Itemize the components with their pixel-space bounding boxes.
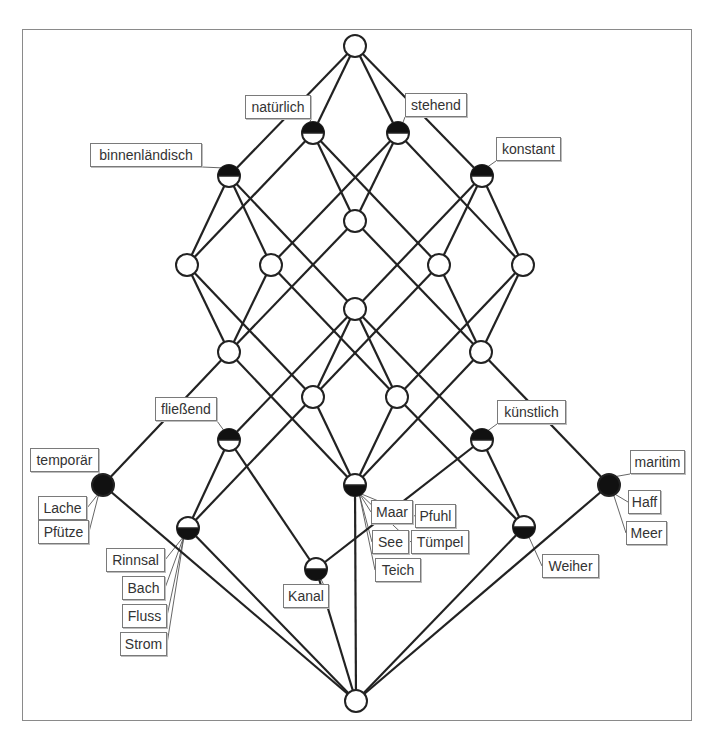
lattice-edge [439,176,482,265]
concept-node-icon[interactable] [302,386,324,408]
lattice-graph [0,0,717,742]
lattice-edge [439,265,481,352]
attribute-label: temporär [30,448,99,472]
lattice-edge [482,176,523,265]
lattice-edge [229,440,316,569]
lattice-edge [313,133,355,221]
concept-node-icon[interactable] [218,341,240,363]
lattice-edge [355,46,398,133]
concept-node-icon[interactable] [302,122,324,144]
label-connector [528,535,542,566]
concept-node-icon[interactable] [470,341,492,363]
object-label: Maar [371,500,413,524]
concept-node-icon[interactable] [345,690,367,712]
concept-node-icon[interactable] [471,429,493,451]
concept-node-icon[interactable] [344,210,366,232]
lattice-edge [313,397,355,485]
lattice-edge [481,265,523,352]
object-label: Pfütze [38,520,89,544]
object-label: Fluss [122,604,167,628]
concept-node-icon[interactable] [428,254,450,276]
attribute-label: maritim [630,450,685,474]
object-label: Bach [122,576,165,600]
object-label: Meer [626,521,667,545]
attribute-label: binnenländisch [90,143,202,167]
object-label: Haff [628,490,661,514]
concept-node-icon[interactable] [598,474,620,496]
object-label: Strom [120,632,167,656]
object-label: See [372,530,409,554]
concept-node-icon[interactable] [176,254,198,276]
lattice-edge [313,309,355,397]
lattice-edge [187,265,229,352]
concept-node-icon[interactable] [177,517,199,539]
concept-node-icon[interactable] [513,516,535,538]
object-label: Weiher [542,554,599,578]
lattice-edge [355,485,356,701]
lattice-edge [229,265,271,352]
concept-node-icon[interactable] [218,165,240,187]
object-label: Pfuhl [415,504,456,528]
object-label: Kanal [283,584,329,608]
concept-node-icon[interactable] [387,122,409,144]
concept-node-icon[interactable] [386,386,408,408]
concept-node-icon[interactable] [260,254,282,276]
lattice-edge [187,176,229,265]
lattice-edge [355,309,397,397]
attribute-label: natürlich [245,95,311,119]
attribute-label: fließend [155,397,217,421]
attribute-label: stehend [405,93,467,117]
concept-node-icon[interactable] [305,558,327,580]
concept-node-icon[interactable] [512,254,534,276]
concept-node-icon[interactable] [344,298,366,320]
concept-node-icon[interactable] [344,35,366,57]
lattice-edge [229,176,271,265]
lattice-edge [188,440,229,528]
concept-node-icon[interactable] [92,474,114,496]
label-connector [613,493,626,533]
concept-lattice-diagram: natürlichstehendbinnenländischkonstantfl… [0,0,717,742]
object-label: Lache [38,496,87,520]
object-label: Teich [375,558,421,582]
object-label: Rinnsal [106,548,165,572]
attribute-label: konstant [496,137,561,161]
concept-node-icon[interactable] [471,165,493,187]
lattice-edge [313,46,355,133]
object-label: Tümpel [411,530,469,554]
lattice-edge [482,440,524,527]
attribute-label: künstlich [497,400,566,424]
lattice-edge [355,133,398,221]
concept-node-icon[interactable] [218,429,240,451]
concept-node-icon[interactable] [344,474,366,496]
lattice-edge [355,397,397,485]
